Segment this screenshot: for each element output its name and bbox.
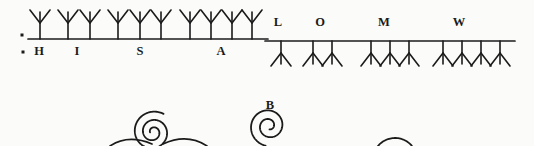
spiral-label-b: B: [266, 99, 274, 112]
spiral-base-curve: [110, 139, 152, 146]
tally-script-diagram: H I S A L O M W B: [0, 0, 534, 146]
group-label-h: H: [34, 45, 44, 58]
group-label-l: L: [274, 16, 282, 29]
group-label-a: A: [216, 45, 225, 58]
group-label-o: O: [315, 16, 325, 29]
right-arc: [378, 138, 412, 146]
group-label-w: W: [453, 16, 466, 29]
group-label-i: I: [75, 45, 80, 58]
marker-dot: [22, 51, 25, 54]
group-label-s: S: [137, 45, 144, 58]
group-label-m: M: [378, 16, 390, 29]
center-spiral: [251, 110, 282, 145]
spiral-base-curve: [163, 139, 207, 146]
marker-dot: [21, 34, 24, 37]
